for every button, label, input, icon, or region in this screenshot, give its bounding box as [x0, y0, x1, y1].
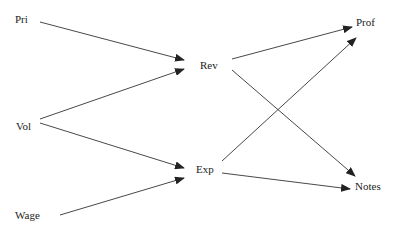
- edge-rev-to-prof: [232, 27, 352, 59]
- node-notes: Notes: [355, 180, 381, 192]
- edge-exp-to-notes: [222, 173, 350, 189]
- node-vol: Vol: [16, 120, 31, 132]
- node-pri: Pri: [15, 13, 28, 25]
- edge-vol-to-exp: [40, 123, 184, 168]
- node-exp: Exp: [196, 163, 214, 175]
- node-prof: Prof: [356, 16, 375, 28]
- edges-layer: [0, 0, 395, 232]
- node-rev: Rev: [200, 59, 218, 71]
- edge-vol-to-rev: [40, 69, 184, 119]
- node-wage: Wage: [15, 209, 40, 221]
- edge-wage-to-exp: [60, 178, 184, 215]
- diagram-canvas: PriVolWageRevExpProfNotes: [0, 0, 395, 232]
- edge-pri-to-rev: [40, 22, 184, 60]
- edge-rev-to-notes: [232, 70, 355, 176]
